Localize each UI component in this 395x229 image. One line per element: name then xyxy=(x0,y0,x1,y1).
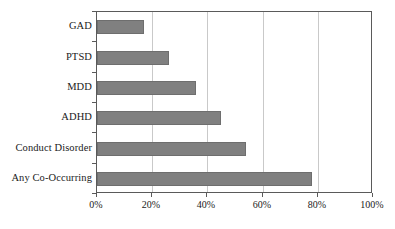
bar-ptsd xyxy=(97,51,169,65)
y-axis-label-conduct-disorder: Conduct Disorder xyxy=(0,142,92,153)
y-axis-label-adhd: ADHD xyxy=(0,111,92,122)
x-axis-tick xyxy=(262,193,263,197)
bar-chart-figure: GADPTSDMDDADHDConduct DisorderAny Co-Occ… xyxy=(0,0,395,229)
y-axis-category-labels: GADPTSDMDDADHDConduct DisorderAny Co-Occ… xyxy=(0,11,92,193)
x-axis-tick xyxy=(151,193,152,197)
x-axis-label-80pct: 80% xyxy=(295,199,339,211)
x-axis-tick xyxy=(372,193,373,197)
y-axis-tick xyxy=(92,72,96,73)
bar-row xyxy=(97,51,371,65)
y-axis-label-mdd: MDD xyxy=(0,81,92,92)
x-axis-label-20pct: 20% xyxy=(129,199,173,211)
x-axis-label-0pct: 0% xyxy=(74,199,118,211)
bar-row xyxy=(97,81,371,95)
y-axis-tick xyxy=(92,102,96,103)
x-axis-label-100pct: 100% xyxy=(350,199,394,211)
bar-row xyxy=(97,20,371,34)
bar-any-co-occurring xyxy=(97,172,312,186)
x-axis-label-40pct: 40% xyxy=(184,199,228,211)
y-axis-tick xyxy=(92,11,96,12)
bar-series xyxy=(97,12,371,192)
bar-mdd xyxy=(97,81,196,95)
x-axis-label-60pct: 60% xyxy=(240,199,284,211)
x-axis-tick xyxy=(96,193,97,197)
y-axis-label-any-co-occurring: Any Co-Occurring xyxy=(0,172,92,183)
y-axis-tick xyxy=(92,132,96,133)
bar-conduct-disorder xyxy=(97,142,246,156)
bar-gad xyxy=(97,20,144,34)
x-axis-tick xyxy=(206,193,207,197)
bar-row xyxy=(97,172,371,186)
x-axis-tick xyxy=(317,193,318,197)
bar-row xyxy=(97,142,371,156)
y-axis-tick xyxy=(92,41,96,42)
y-axis-label-gad: GAD xyxy=(0,20,92,31)
bar-row xyxy=(97,111,371,125)
y-axis-label-ptsd: PTSD xyxy=(0,51,92,62)
bar-adhd xyxy=(97,111,221,125)
y-axis-tick xyxy=(92,163,96,164)
plot-area xyxy=(96,11,372,193)
